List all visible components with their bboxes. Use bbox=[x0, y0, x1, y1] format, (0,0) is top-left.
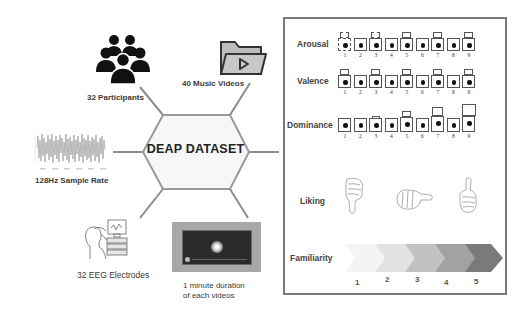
row-label-dominance: Dominance bbox=[287, 120, 333, 130]
sam-option-4[interactable]: 4 bbox=[384, 29, 400, 55]
video-player-icon bbox=[172, 222, 261, 272]
duration-line-2: of each videos bbox=[183, 291, 245, 301]
eeg-signal-waveform-icon bbox=[30, 128, 112, 172]
sam-figure-icon bbox=[432, 107, 443, 116]
music-videos-label: 40 Music Videos bbox=[182, 79, 244, 88]
connector-electrodes bbox=[140, 189, 163, 218]
familiarity-number-2: 2 bbox=[385, 275, 389, 284]
sam-option-8[interactable]: 8 bbox=[446, 66, 462, 92]
sam-scale-valence: 1 2 3 4 5 6 7 8 9 bbox=[337, 66, 477, 92]
row-label-valence: Valence bbox=[297, 76, 329, 86]
sam-option-3[interactable]: 3 bbox=[368, 66, 384, 92]
thumbs-down-icon[interactable] bbox=[343, 177, 365, 215]
sam-option-3[interactable]: 3 bbox=[368, 108, 384, 134]
sam-option-1[interactable]: 1 bbox=[337, 29, 353, 55]
thumbs-up-icon[interactable] bbox=[457, 176, 479, 216]
sample-rate-label: 128Hz Sample Rate bbox=[35, 176, 108, 185]
sam-option-9[interactable]: 9 bbox=[461, 66, 477, 92]
familiarity-number-5: 5 bbox=[474, 277, 478, 286]
sam-option-7[interactable]: 7 bbox=[430, 108, 446, 134]
sam-option-9[interactable]: 9 bbox=[461, 29, 477, 55]
sam-option-2[interactable]: 2 bbox=[353, 66, 369, 92]
sam-option-3[interactable]: 3 bbox=[368, 29, 384, 55]
sam-option-4[interactable]: 4 bbox=[384, 108, 400, 134]
people-group-icon bbox=[96, 34, 152, 86]
sam-option-9[interactable]: 9 bbox=[461, 108, 477, 134]
sam-option-8[interactable]: 8 bbox=[446, 108, 462, 134]
center-title: DEAP DATASET bbox=[143, 142, 248, 156]
sam-figure-icon bbox=[462, 104, 476, 116]
sam-option-6[interactable]: 6 bbox=[415, 66, 431, 92]
player-progress-bar bbox=[192, 259, 247, 260]
video-folder-icon bbox=[218, 38, 268, 78]
sam-option-5[interactable]: 5 bbox=[399, 66, 415, 92]
sam-option-1[interactable]: 1 bbox=[337, 66, 353, 92]
self-assessment-panel: Arousal 1 2 3 4 5 6 7 8 9 Valence 1 2 3 … bbox=[283, 17, 507, 295]
row-label-liking: Liking bbox=[300, 196, 325, 206]
sam-option-2[interactable]: 2 bbox=[353, 108, 369, 134]
familiarity-number-4: 4 bbox=[444, 278, 448, 287]
sam-option-4[interactable]: 4 bbox=[384, 66, 400, 92]
familiarity-number-3: 3 bbox=[415, 275, 419, 284]
player-control-dot bbox=[185, 257, 190, 262]
play-icon bbox=[211, 241, 223, 253]
familiarity-number-1: 1 bbox=[355, 278, 359, 287]
sam-option-6[interactable]: 6 bbox=[415, 108, 431, 134]
sam-option-2[interactable]: 2 bbox=[353, 29, 369, 55]
participants-label: 32 Participants bbox=[87, 93, 144, 102]
duration-label: 1 minute duration of each videos bbox=[183, 281, 245, 301]
video-screen bbox=[182, 230, 252, 265]
sam-option-1[interactable]: 1 bbox=[337, 108, 353, 134]
row-label-arousal: Arousal bbox=[297, 39, 329, 49]
electrodes-label: 32 EEG Electrodes bbox=[77, 270, 149, 280]
sam-option-7[interactable]: 7 bbox=[430, 66, 446, 92]
sam-option-5[interactable]: 5 bbox=[399, 29, 415, 55]
sam-scale-arousal: 1 2 3 4 5 6 7 8 9 bbox=[337, 29, 477, 55]
sam-option-8[interactable]: 8 bbox=[446, 29, 462, 55]
familiarity-chevron-scale bbox=[345, 244, 505, 272]
sam-scale-dominance: 1 2 3 4 5 6 7 8 9 bbox=[337, 108, 477, 134]
sam-option-7[interactable]: 7 bbox=[430, 29, 446, 55]
row-label-familiarity: Familiarity bbox=[290, 253, 333, 263]
eeg-recording-person-icon bbox=[80, 217, 130, 261]
duration-line-1: 1 minute duration bbox=[183, 281, 245, 291]
connector-duration bbox=[230, 189, 248, 218]
sam-option-5[interactable]: 5 bbox=[399, 108, 415, 134]
sam-option-6[interactable]: 6 bbox=[415, 29, 431, 55]
thumbs-sideways-icon[interactable] bbox=[395, 188, 435, 212]
